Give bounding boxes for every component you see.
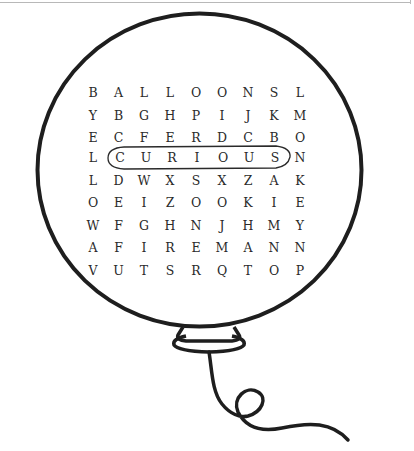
grid-cell[interactable]: M [264,219,284,233]
grid-cell[interactable]: G [134,219,154,233]
grid-cell[interactable]: A [109,86,129,100]
grid-cell[interactable]: M [212,241,232,255]
grid-cell[interactable]: O [212,86,232,100]
grid-cell[interactable]: G [134,109,154,123]
grid-cell[interactable]: V [83,264,103,278]
grid-cell[interactable]: Q [212,264,232,278]
grid-cell[interactable]: F [109,219,129,233]
grid-cell[interactable]: S [160,264,180,278]
grid-cell[interactable]: R [186,131,206,145]
grid-cell[interactable]: W [134,174,154,188]
grid-cell[interactable]: U [109,264,129,278]
grid-cell[interactable]: E [109,196,129,210]
grid-cell[interactable]: L [160,86,180,100]
grid-cell-circled[interactable]: U [239,151,259,165]
grid-cell[interactable]: M [290,109,310,123]
grid-cell[interactable]: P [290,264,310,278]
grid-cell[interactable]: O [186,86,206,100]
grid-cell-circled[interactable]: R [162,151,182,165]
grid-cell[interactable]: O [212,196,232,210]
grid-cell[interactable]: N [186,219,206,233]
grid-cell[interactable]: H [238,219,258,233]
grid-cell[interactable]: B [109,109,129,123]
grid-cell[interactable]: F [134,131,154,145]
grid-cell[interactable]: D [109,174,129,188]
grid-cell[interactable]: K [290,174,310,188]
grid-cell[interactable]: Y [290,219,310,233]
grid-cell[interactable]: N [238,86,258,100]
grid-cell[interactable]: R [160,241,180,255]
grid-cell[interactable]: J [238,109,258,123]
grid-cell[interactable]: A [83,241,103,255]
grid-cell[interactable]: E [83,131,103,145]
grid-cell[interactable]: H [160,219,180,233]
grid-cell[interactable]: L [83,151,103,165]
grid-cell[interactable]: H [160,109,180,123]
grid-cell[interactable]: L [83,174,103,188]
grid-cell[interactable]: J [212,219,232,233]
grid-cell[interactable]: L [290,86,310,100]
grid-cell[interactable]: B [264,131,284,145]
grid-cell[interactable]: O [290,131,310,145]
grid-cell[interactable]: N [290,151,310,165]
grid-cell[interactable]: I [212,109,232,123]
grid-cell-circled[interactable]: I [187,151,207,165]
grid-cell[interactable]: O [264,264,284,278]
grid-cell-circled[interactable]: U [136,151,156,165]
grid-cell[interactable]: K [238,196,258,210]
grid-cell[interactable]: W [83,219,103,233]
grid-cell[interactable]: C [238,131,258,145]
grid-cell[interactable]: S [186,174,206,188]
grid-cell[interactable]: E [186,241,206,255]
grid-cell[interactable]: N [264,241,284,255]
grid-cell[interactable]: S [264,86,284,100]
grid-cell[interactable]: I [134,196,154,210]
grid-cell-circled[interactable]: C [110,151,130,165]
grid-cell[interactable]: O [83,196,103,210]
grid-cell-circled[interactable]: S [265,151,285,165]
grid-cell[interactable]: P [186,109,206,123]
grid-cell[interactable]: Z [238,174,258,188]
grid-cell[interactable]: F [109,241,129,255]
grid-cell[interactable]: T [134,264,154,278]
grid-cell[interactable]: Z [160,196,180,210]
grid-cell[interactable]: I [134,241,154,255]
grid-cell[interactable]: A [264,174,284,188]
grid-cell[interactable]: K [264,109,284,123]
grid-cell[interactable]: E [290,196,310,210]
grid-cell[interactable]: E [160,131,180,145]
grid-cell[interactable]: Y [83,109,103,123]
grid-cell[interactable]: L [134,86,154,100]
grid-cell[interactable]: O [186,196,206,210]
grid-cell[interactable]: B [83,86,103,100]
grid-cell[interactable]: R [186,264,206,278]
grid-cell[interactable]: I [264,196,284,210]
grid-cell[interactable]: C [109,131,129,145]
grid-cell[interactable]: D [212,131,232,145]
grid-cell[interactable]: A [238,241,258,255]
word-search-grid: B A L L O O N S L Y B G H P I J K M E C … [0,0,414,451]
grid-cell-circled[interactable]: O [213,151,233,165]
grid-cell[interactable]: X [160,174,180,188]
grid-cell[interactable]: X [212,174,232,188]
grid-cell[interactable]: T [238,264,258,278]
grid-cell[interactable]: N [290,241,310,255]
